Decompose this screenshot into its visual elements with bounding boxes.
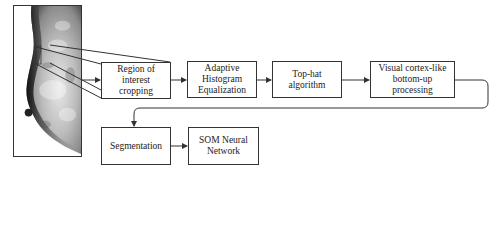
step-label: Visual cortex-like bottom-up processing — [373, 63, 452, 96]
step-label: Region of interest cropping — [104, 64, 168, 97]
step-label: Top-hat algorithm — [275, 69, 339, 91]
step-label: Adaptive Histogram Equalization — [190, 63, 254, 96]
step-visual-cortex-processing: Visual cortex-like bottom-up processing — [370, 61, 455, 98]
step-label: Segmentation — [110, 141, 162, 152]
step-roi-cropping: Region of interest cropping — [101, 62, 171, 99]
step-adaptive-histogram-equalization: Adaptive Histogram Equalization — [187, 61, 257, 98]
step-label: SOM Neural Network — [191, 135, 256, 157]
step-top-hat-algorithm: Top-hat algorithm — [272, 61, 342, 98]
step-segmentation: Segmentation — [101, 127, 171, 165]
step-som-neural-network: SOM Neural Network — [188, 127, 259, 165]
